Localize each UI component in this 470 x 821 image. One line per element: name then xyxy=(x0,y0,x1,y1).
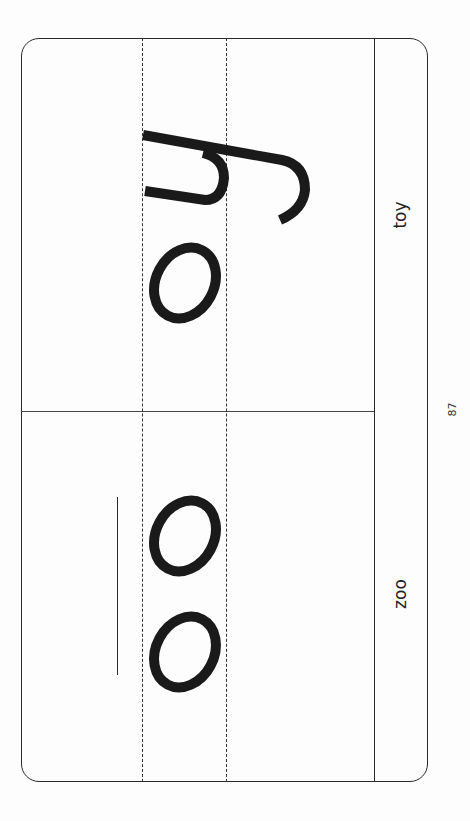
word-label-toy: toy xyxy=(390,185,410,245)
page-number: 87 xyxy=(446,395,459,425)
word-label-zoo: zoo xyxy=(390,564,410,624)
letter-strokes xyxy=(0,0,470,821)
worksheet-page: toy zoo 87 xyxy=(0,0,470,821)
letter-o-zoo-2 xyxy=(142,606,228,699)
letter-o-toy xyxy=(142,237,228,330)
letter-o-zoo-1 xyxy=(142,490,228,583)
letter-y xyxy=(143,135,305,220)
